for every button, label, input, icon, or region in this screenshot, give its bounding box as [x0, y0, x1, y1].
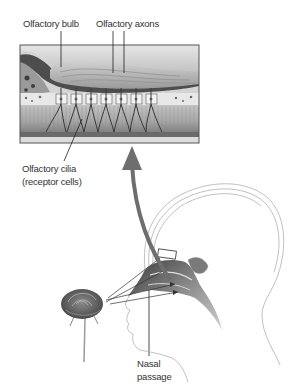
label-olfactory-axons: Olfactory axons: [96, 18, 159, 30]
label-nasal: Nasal: [137, 358, 160, 370]
olfactory-diagram: [0, 0, 300, 392]
inset-magnified-view: [20, 45, 199, 143]
magnify-arrow: [122, 146, 170, 280]
inset-source-box: [158, 249, 177, 259]
label-olfactory-cilia: Olfactory cilia: [22, 163, 76, 175]
rose-illustration: [61, 289, 103, 362]
label-passage: passage: [137, 371, 172, 383]
label-olfactory-bulb: Olfactory bulb: [23, 18, 79, 30]
label-receptor-cells: (receptor cells): [22, 176, 82, 188]
